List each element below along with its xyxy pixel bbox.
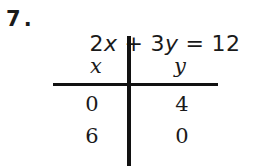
table-header-y: y: [152, 56, 208, 77]
table-cell-y-row-1: 0: [154, 126, 210, 147]
table-header-rule: [53, 83, 218, 86]
table-vertical-divider: [127, 36, 131, 166]
xy-value-table: x y 0 4 6 0: [0, 0, 266, 166]
table-cell-x-row-1: 6: [64, 126, 120, 147]
table-cell-x-row-0: 0: [64, 94, 120, 115]
table-cell-y-row-0: 4: [154, 94, 210, 115]
table-header-x: x: [68, 56, 124, 77]
worksheet-problem: 7 . 2x+3y=12 x y 0 4 6 0: [0, 0, 266, 166]
